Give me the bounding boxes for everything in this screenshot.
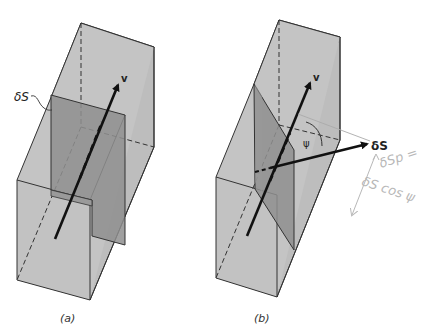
velocity-label-a: v	[121, 73, 128, 84]
normal-label-b: δS	[371, 139, 388, 153]
panel-a: v δS (a)	[14, 23, 154, 325]
annotation-line2: δS cos ψ	[360, 174, 417, 205]
caption-b: (b)	[254, 312, 270, 325]
caption-a: (a)	[60, 312, 75, 325]
velocity-label-b: v	[313, 72, 320, 83]
angle-label-psi: ψ	[303, 138, 310, 149]
surface-label-a: δS	[14, 90, 29, 104]
flow-tube-diagram: v δS (a) ψ v δ	[0, 0, 429, 336]
panel-b: ψ v δS δSp = δS cos ψ (b)	[216, 20, 419, 325]
